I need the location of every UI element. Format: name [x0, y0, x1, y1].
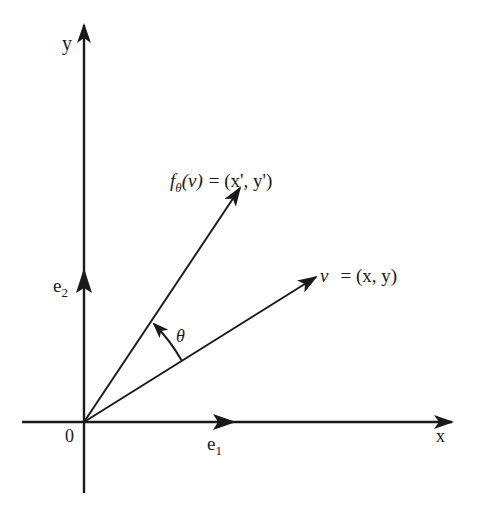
vector-v-label: v= (x, y) [320, 265, 397, 287]
e2-label: e2 [53, 275, 68, 300]
theta-angle-label: θ [176, 326, 185, 346]
y-axis-label: y [62, 32, 72, 55]
x-axis-label: x [436, 426, 445, 446]
origin-label: 0 [65, 426, 74, 446]
vector-f-theta-v [84, 188, 240, 422]
rotation-diagram: y x 0 e1 e2 θ v= (x, y) fθ(v)= (x', y') [0, 0, 482, 510]
vector-v [84, 277, 316, 422]
e1-label: e1 [207, 433, 222, 458]
vector-f-label: fθ(v)= (x', y') [170, 170, 272, 195]
